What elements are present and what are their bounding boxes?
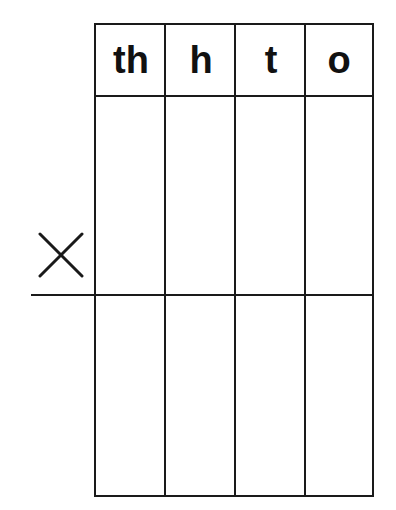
header-tens: t (236, 25, 306, 95)
answer-line (31, 294, 374, 296)
header-ones: o (304, 25, 374, 95)
column-divider-1 (164, 25, 166, 495)
column-divider-3 (304, 25, 306, 495)
multiplication-sign-icon (38, 232, 84, 278)
header-hundreds: h (166, 25, 236, 95)
place-value-grid: th h t o (94, 23, 374, 497)
column-divider-2 (234, 25, 236, 495)
header-thousands: th (96, 25, 166, 95)
